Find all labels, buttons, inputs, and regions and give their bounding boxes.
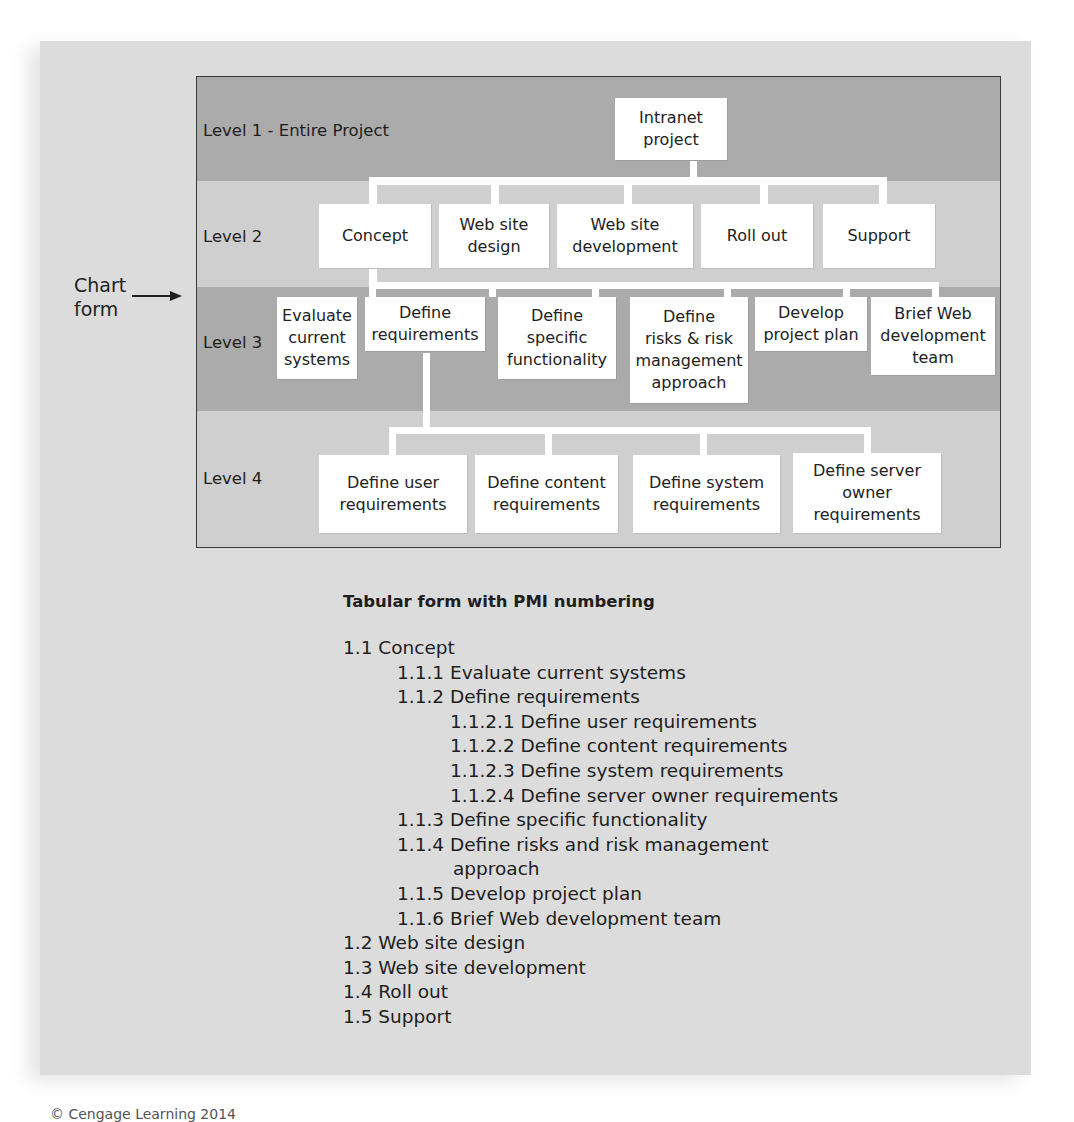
outline-item: 1.4 Roll out — [343, 980, 838, 1005]
connector — [369, 282, 376, 297]
outline-item: 1.1.3 Define specific functionality — [343, 808, 838, 833]
wbs-node-concept: Concept — [319, 204, 431, 268]
connector — [369, 282, 939, 289]
outline-item: approach — [343, 857, 838, 882]
wbs-node-web-site-design: Web site design — [439, 204, 549, 268]
right-arrow-icon — [132, 291, 182, 301]
connector — [489, 282, 496, 297]
connector — [592, 282, 599, 297]
connector — [545, 427, 552, 457]
copyright-text: © Cengage Learning 2014 — [50, 1106, 236, 1122]
wbs-node-web-site-development: Web site development — [557, 204, 693, 268]
outline-item: 1.1.5 Develop project plan — [343, 882, 838, 907]
outline-item: 1.1.2 Define requirements — [343, 685, 838, 710]
outline-item: 1.1.2.4 Define server owner requirements — [343, 784, 838, 809]
connector — [932, 282, 939, 297]
connector — [624, 177, 632, 205]
wbs-node-define-content-requirements: Define content requirements — [475, 455, 618, 533]
wbs-node-brief-web-development-team: Brief Web development team — [871, 297, 995, 375]
wbs-node-define-system-requirements: Define system requirements — [633, 455, 780, 533]
connector — [879, 177, 887, 205]
connector — [369, 177, 377, 205]
wbs-node-evaluate-current-systems: Evaluate current systems — [277, 297, 357, 379]
outline-item: 1.1.2.1 Define user requirements — [343, 710, 838, 735]
wbs-node-develop-project-plan: Develop project plan — [755, 297, 867, 351]
wbs-chart: Level 1 - Entire Project Level 2 Level 3… — [196, 76, 1001, 548]
level-3-label: Level 3 — [203, 333, 262, 352]
wbs-node-define-risks: Define risks & risk management approach — [630, 297, 748, 403]
outline-item: 1.1.2.2 Define content requirements — [343, 734, 838, 759]
wbs-node-intranet-project: Intranet project — [615, 98, 727, 160]
level-2-label: Level 2 — [203, 227, 262, 246]
connector — [760, 177, 768, 205]
connector — [843, 282, 850, 297]
level-1-label: Level 1 - Entire Project — [203, 121, 389, 140]
wbs-node-support: Support — [823, 204, 935, 268]
wbs-node-define-specific-functionality: Define specific functionality — [498, 297, 616, 379]
outline-item: 1.1 Concept — [343, 636, 838, 661]
connector — [700, 427, 707, 457]
outline-item: 1.1.2.3 Define system requirements — [343, 759, 838, 784]
connector — [389, 427, 871, 434]
wbs-node-roll-out: Roll out — [701, 204, 813, 268]
outline-item: 1.1.6 Brief Web development team — [343, 907, 838, 932]
connector — [389, 427, 396, 457]
level-4-label: Level 4 — [203, 469, 262, 488]
outline-item: 1.1.4 Define risks and risk management — [343, 833, 838, 858]
outline-item: 1.2 Web site design — [343, 931, 838, 956]
connector — [724, 282, 731, 297]
connector — [423, 353, 430, 433]
tabular-title: Tabular form with PMI numbering — [343, 592, 655, 611]
pmi-outline: 1.1 Concept 1.1.1 Evaluate current syste… — [343, 636, 838, 1030]
wbs-node-define-server-owner-requirements: Define server owner requirements — [793, 453, 941, 533]
connector — [491, 177, 499, 205]
outline-item: 1.1.1 Evaluate current systems — [343, 661, 838, 686]
wbs-node-define-user-requirements: Define user requirements — [319, 455, 467, 533]
outline-item: 1.5 Support — [343, 1005, 838, 1030]
outline-item: 1.3 Web site development — [343, 956, 838, 981]
wbs-node-define-requirements: Define requirements — [365, 297, 485, 351]
chart-form-label: Chart form — [74, 273, 126, 321]
